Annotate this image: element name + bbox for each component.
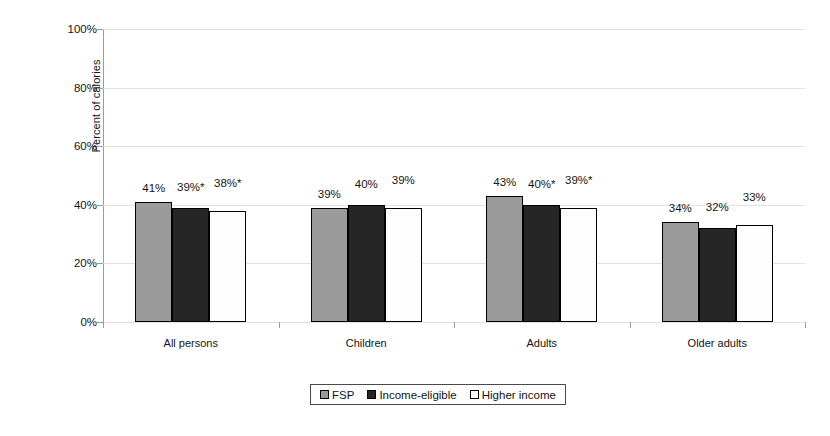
category-label: Older adults	[688, 337, 747, 349]
bar-value-label: 40%*	[528, 178, 556, 190]
bar-chart: Percent of calories 0%20%40%60%80%100% 4…	[0, 0, 830, 436]
x-axis-tick	[279, 322, 280, 328]
bar	[135, 202, 172, 322]
bar	[486, 196, 523, 322]
legend-item-income-eligible: Income-eligible	[367, 389, 456, 401]
bar	[385, 208, 422, 322]
bar	[662, 222, 699, 322]
bar	[523, 205, 560, 322]
legend-item-fsp: FSP	[320, 389, 354, 401]
legend-item-higher-income: Higher income	[470, 389, 556, 401]
bar-value-label: 32%	[706, 201, 729, 213]
bar-value-label: 38%*	[214, 177, 242, 189]
legend-swatch-white-icon	[470, 390, 479, 399]
y-axis-tick-label: 20%	[51, 257, 97, 269]
bar-value-label: 39%	[392, 174, 415, 186]
y-axis-tick-label: 0%	[51, 316, 97, 328]
legend-label-income-eligible: Income-eligible	[379, 389, 456, 401]
y-axis-tick-label: 60%	[51, 140, 97, 152]
bar-value-label: 40%	[355, 178, 378, 190]
legend: FSP Income-eligible Higher income	[310, 384, 566, 405]
bar	[699, 228, 736, 322]
x-axis-tick	[103, 322, 104, 328]
y-axis-tick-label: 80%	[51, 82, 97, 94]
bar	[348, 205, 385, 322]
bar	[736, 225, 773, 322]
legend-swatch-gray-icon	[320, 390, 329, 399]
bar-value-label: 33%	[743, 191, 766, 203]
y-axis-tick-label: 40%	[51, 199, 97, 211]
legend-swatch-black-icon	[367, 390, 376, 399]
bar	[172, 208, 209, 322]
category-label: Children	[346, 337, 387, 349]
bar-value-label: 43%	[493, 176, 516, 188]
x-axis-tick	[454, 322, 455, 328]
bar-value-label: 39%*	[177, 181, 205, 193]
bar-value-label: 34%	[669, 202, 692, 214]
bar-value-label: 39%	[318, 188, 341, 200]
category-label: All persons	[164, 337, 218, 349]
legend-label-fsp: FSP	[332, 389, 354, 401]
x-axis-tick	[805, 322, 806, 328]
category-label: Adults	[526, 337, 557, 349]
bar	[560, 208, 597, 322]
bar	[311, 208, 348, 322]
bar-value-label: 41%	[142, 182, 165, 194]
bar	[209, 211, 246, 322]
legend-label-higher-income: Higher income	[482, 389, 556, 401]
y-axis-title: Percent of calories	[90, 26, 102, 186]
bar-value-label: 39%*	[565, 174, 593, 186]
plot-area	[103, 29, 805, 322]
y-axis-tick-label: 100%	[51, 23, 97, 35]
x-axis-tick	[630, 322, 631, 328]
